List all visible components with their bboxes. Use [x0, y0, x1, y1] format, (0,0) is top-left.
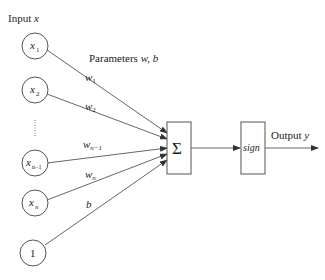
input-node-xn: x n: [22, 190, 48, 216]
input-node-x1: x 1: [22, 33, 48, 59]
weight-label-w2: w2: [85, 100, 96, 114]
svg-text:x: x: [29, 83, 35, 95]
svg-text:1: 1: [36, 46, 40, 54]
input-label: Input x: [8, 12, 39, 24]
weight-label-wn-1: wn−1: [83, 138, 102, 152]
svg-text:x: x: [29, 39, 35, 51]
edge-bias: [45, 160, 167, 245]
svg-text:x: x: [25, 156, 31, 168]
svg-text:2: 2: [36, 90, 40, 98]
svg-text:sign: sign: [243, 142, 260, 153]
weight-label-b: b: [86, 198, 92, 210]
input-node-xn-1: x n−1: [22, 150, 48, 176]
output-label: Output y: [271, 129, 309, 141]
weight-label-w1: w1: [85, 71, 96, 85]
sum-node: Σ: [167, 122, 191, 174]
parameters-label: Parameters w, b: [89, 52, 159, 64]
input-node-x2: x 2: [22, 77, 48, 103]
sign-node: sign: [241, 122, 265, 174]
edge-x2: [47, 94, 167, 139]
svg-text:n: n: [35, 203, 39, 211]
input-node-bias: 1: [20, 240, 46, 266]
sigma-icon: Σ: [172, 139, 182, 158]
svg-text:x: x: [28, 196, 34, 208]
svg-text:1: 1: [30, 247, 36, 259]
perceptron-diagram: Input x Parameters w, b x 1 x 2 x n−1 x …: [0, 0, 325, 280]
weight-label-wn: wn: [85, 168, 96, 182]
svg-text:n−1: n−1: [32, 164, 41, 170]
